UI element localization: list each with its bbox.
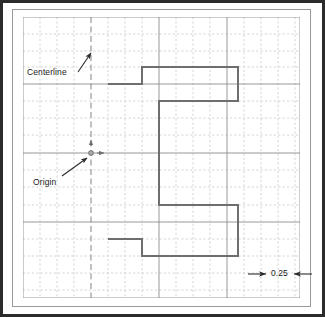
origin-leader-arrow xyxy=(62,158,87,176)
centerline-leader-arrow xyxy=(78,53,91,72)
origin-label: Origin xyxy=(33,178,56,187)
centerline-label: Centerline xyxy=(27,68,67,77)
profile-outline xyxy=(108,67,238,256)
dimension-label: 0.25 xyxy=(271,269,288,278)
drawing-canvas: Centerline Origin 0.25 xyxy=(0,0,325,317)
